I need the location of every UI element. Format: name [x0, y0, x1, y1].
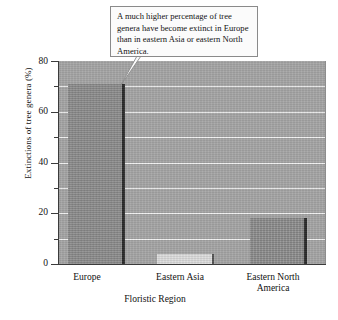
- x-tick-label-ena-line2: America: [257, 283, 290, 293]
- bar-eastern-north-america[interactable]: [250, 218, 307, 264]
- callout-text: A much higher percentage of tree genera …: [117, 11, 248, 56]
- y-tick-mark-80: [51, 61, 58, 62]
- bar-eastern-north-america-edge: [304, 218, 307, 264]
- plot-right-border: [325, 61, 326, 265]
- bar-europe-edge: [122, 84, 125, 264]
- bar-eastern-asia[interactable]: [157, 254, 214, 264]
- x-axis-line: [51, 264, 326, 265]
- x-tick-label-eastern-north-america: Eastern North America: [228, 272, 318, 294]
- x-axis-title: Floristic Region: [0, 294, 338, 304]
- x-tick-label-ena-line1: Eastern North: [246, 272, 299, 282]
- x-tick-label-eastern-asia: Eastern Asia: [135, 272, 225, 283]
- plot-area: [58, 61, 325, 264]
- y-tick-mark-40: [51, 163, 58, 164]
- bar-europe-face: [68, 84, 125, 264]
- callout-annotation: A much higher percentage of tree genera …: [110, 6, 258, 57]
- callout-pointer-icon: [119, 56, 143, 86]
- y-tick-mark-20: [51, 213, 58, 214]
- y-tick-mark-60: [51, 112, 58, 113]
- bar-chart-figure: Extinctions of tree genera (%) 80 60 40 …: [0, 0, 338, 320]
- bar-eastern-north-america-face: [250, 218, 307, 264]
- bar-europe[interactable]: [68, 84, 125, 264]
- bar-eastern-asia-face: [157, 254, 214, 264]
- x-axis-title-text: Floristic Region: [124, 294, 186, 304]
- bar-eastern-asia-edge: [212, 254, 214, 264]
- x-tick-label-europe: Europe: [42, 272, 132, 283]
- y-axis-line: [58, 61, 59, 265]
